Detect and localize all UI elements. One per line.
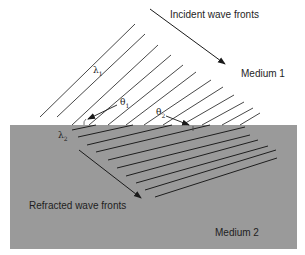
incident-wave-fronts	[40, 24, 260, 125]
refracted-wave-fronts-label: Refracted wave fronts	[29, 200, 126, 211]
lambda2-symbol: λ2	[58, 130, 68, 142]
lambda1-symbol: λ1	[93, 65, 103, 77]
theta1-symbol: θ1	[120, 97, 129, 109]
theta2-symbol: θ2	[156, 107, 165, 119]
refraction-diagram	[0, 0, 305, 255]
theta1-pointer	[88, 105, 117, 119]
incident-wave-fronts-label: Incident wave fronts	[170, 9, 259, 20]
medium-2-label: Medium 2	[215, 227, 259, 238]
medium-1-label: Medium 1	[241, 68, 285, 79]
theta1-angle-arc	[84, 119, 86, 125]
